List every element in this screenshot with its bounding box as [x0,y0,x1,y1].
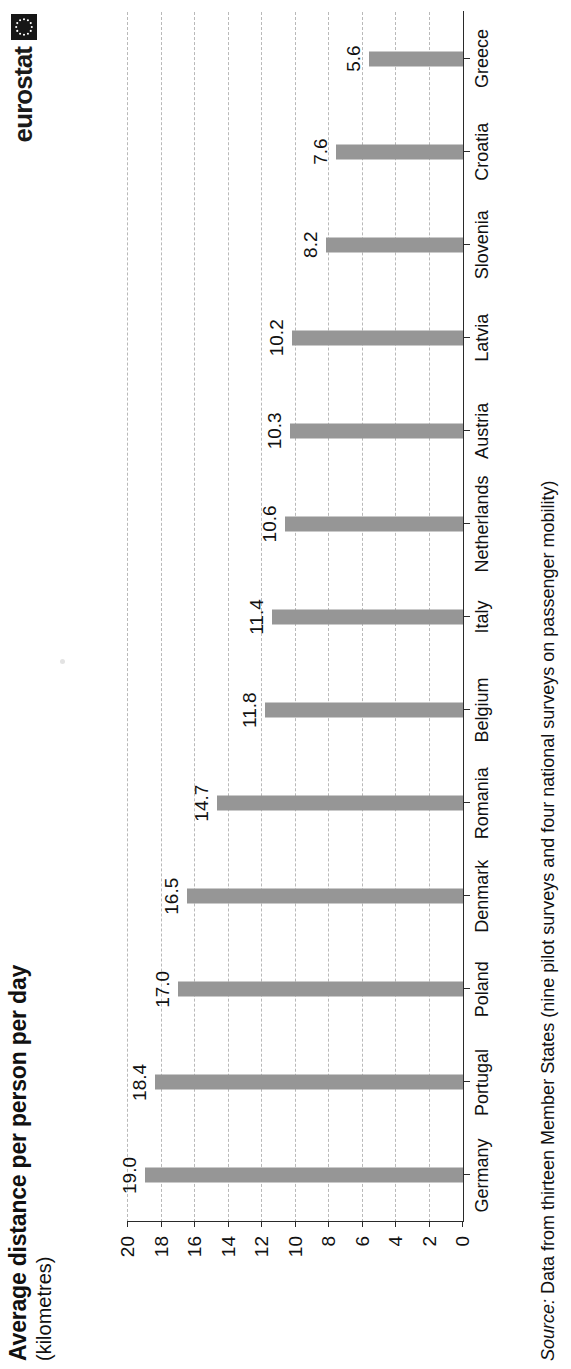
page-title: Average distance per person per day [6,661,32,1361]
category-tick [463,1174,470,1175]
axis-tick-label: 10 [285,1236,307,1257]
axis-tick-label: 14 [218,1236,240,1257]
scan-artifact [60,659,65,664]
axis-tick-label: 12 [251,1236,273,1257]
axis-tick-label: 16 [184,1236,206,1257]
axis-tick-label: 6 [352,1236,374,1247]
bar-value-label: 10.6 [259,505,281,542]
bar-group: 19.0Germany [127,1129,463,1222]
bar: 8.2 [326,237,463,252]
bar: 5.6 [369,51,463,66]
axis-tick-label: 8 [318,1236,340,1247]
bar-group: 18.4Portugal [127,1036,463,1129]
axis-tick-label: 4 [385,1236,407,1247]
axis-tick-label: 18 [151,1236,173,1257]
category-tick [463,337,470,338]
bar: 10.3 [290,423,463,438]
bar-group: 16.5Denmark [127,850,463,943]
bar-value-label: 5.6 [343,45,365,71]
category-tick [463,244,470,245]
source-label: Source: [538,1299,558,1361]
bar-group: 8.2Slovenia [127,198,463,291]
bar-value-label: 10.2 [266,319,288,356]
bar-value-label: 14.7 [191,785,213,822]
category-tick [463,1081,470,1082]
category-tick [463,430,470,431]
bar: 7.6 [336,144,463,159]
category-tick [463,523,470,524]
category-tick [463,988,470,989]
bar: 14.7 [217,796,463,811]
category-label: Croatia [472,123,493,181]
category-label: Greece [472,29,493,88]
category-tick [463,58,470,59]
bar-group: 10.6Netherlands [127,477,463,570]
category-label: Austria [472,403,493,459]
source-text: Data from thirteen Member States (nine p… [538,481,558,1299]
chart-plot-area: 02468101214161820 19.0Germany18.4Portuga… [115,0,495,1369]
bar-value-label: 17.0 [152,971,174,1008]
category-label: Denmark [472,860,493,933]
category-label: Romania [472,767,493,839]
bar: 10.6 [285,516,463,531]
category-tick [463,895,470,896]
bar-group: 17.0Poland [127,943,463,1036]
bar-value-label: 11.8 [239,692,261,728]
bar-group: 11.4Italy [127,570,463,663]
bar-group: 14.7Romania [127,757,463,850]
category-label: Latvia [472,314,493,362]
bar: 16.5 [187,889,463,904]
category-label: Germany [472,1138,493,1212]
bar-group: 10.2Latvia [127,291,463,384]
axis-tick-label: 2 [419,1236,441,1247]
axis-tick-label: 20 [117,1236,139,1257]
category-label: Slovenia [472,210,493,279]
bar: 10.2 [292,330,463,345]
eurostat-logo: eurostat [8,14,39,142]
bar-value-label: 7.6 [310,138,332,164]
bar-value-label: 18.4 [129,1064,151,1101]
page-subtitle: (kilometres) [33,661,56,1361]
bar: 11.4 [272,610,463,625]
bar-group: 7.6Croatia [127,105,463,198]
category-tick [463,709,470,710]
bar-series: 19.0Germany18.4Portugal17.0Poland16.5Den… [127,12,463,1222]
bar: 11.8 [265,703,463,718]
category-axis [463,11,464,1222]
title-block: Average distance per person per day (kil… [6,661,56,1361]
category-tick [463,616,470,617]
category-label: Netherlands [472,475,493,572]
bar: 18.4 [155,1075,463,1090]
category-label: Belgium [472,678,493,743]
eu-stars-emblem-icon [11,14,37,40]
bar-value-label: 8.2 [300,231,322,257]
bar: 19.0 [145,1168,463,1183]
category-tick [463,151,470,152]
eurostat-wordmark: eurostat [8,47,39,142]
category-tick [463,802,470,803]
bar-value-label: 10.3 [264,412,286,449]
axis-tick-label: 0 [452,1236,474,1247]
rotated-page-stage: Average distance per person per day (kil… [0,0,571,1369]
bar-value-label: 11.4 [246,599,268,635]
bar-group: 5.6Greece [127,12,463,105]
category-label: Portugal [472,1049,493,1116]
bar-group: 10.3Austria [127,384,463,477]
source-note: Source: Data from thirteen Member States… [538,481,559,1361]
bar-group: 11.8Belgium [127,664,463,757]
bar-value-label: 19.0 [119,1157,141,1194]
category-label: Italy [472,601,493,634]
bar: 17.0 [178,982,463,997]
bar-value-label: 16.5 [161,878,183,915]
category-label: Poland [472,961,493,1017]
